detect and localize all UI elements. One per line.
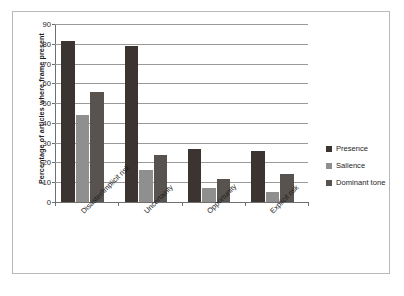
x-tick-mark <box>245 202 246 206</box>
bar-group <box>251 24 294 202</box>
bar <box>188 149 202 202</box>
legend-item[interactable]: Presence <box>326 140 404 157</box>
y-tick-label-70: 70 <box>43 59 51 68</box>
x-tick-mark <box>308 202 309 206</box>
bar-group <box>188 24 231 202</box>
y-tick-mark-50 <box>52 103 55 104</box>
bar-group <box>125 24 168 202</box>
plot-area: 9080706050403020100 Disaster/implicit ri… <box>55 24 308 202</box>
y-tick-mark-40 <box>52 123 55 124</box>
y-tick-label-30: 30 <box>43 138 51 147</box>
y-tick-label-40: 40 <box>43 118 51 127</box>
y-tick-label-90: 90 <box>43 20 51 29</box>
legend-label: Dominant tone <box>336 178 385 187</box>
y-tick-mark-30 <box>52 143 55 144</box>
y-tick-mark-90 <box>52 24 55 25</box>
y-tick-label-60: 60 <box>43 79 51 88</box>
chart-legend: PresenceSalienceDominant tone <box>326 140 404 191</box>
chart-frame: Percentage of articles where frame prese… <box>12 11 390 274</box>
x-tick-mark <box>55 202 56 206</box>
legend-swatch-icon <box>326 163 332 169</box>
legend-swatch-icon <box>326 146 332 152</box>
legend-swatch-icon <box>326 180 332 186</box>
legend-label: Salience <box>336 161 365 170</box>
bar <box>125 46 139 202</box>
bar <box>139 170 153 202</box>
y-tick-label-10: 10 <box>43 178 51 187</box>
figure-container: Percentage of articles where frame prese… <box>0 0 404 296</box>
bar <box>61 41 75 202</box>
x-tick-mark <box>182 202 183 206</box>
x-tick-mark <box>118 202 119 206</box>
y-tick-mark-20 <box>52 162 55 163</box>
y-axis-line <box>55 24 56 202</box>
y-tick-mark-10 <box>52 182 55 183</box>
bar-group <box>61 24 104 202</box>
y-tick-mark-80 <box>52 44 55 45</box>
legend-label: Presence <box>336 144 368 153</box>
legend-item[interactable]: Salience <box>326 157 404 174</box>
y-tick-label-80: 80 <box>43 39 51 48</box>
caption-fragment <box>22 283 382 294</box>
y-tick-label-0: 0 <box>47 198 51 207</box>
legend-item[interactable]: Dominant tone <box>326 174 404 191</box>
y-tick-mark-60 <box>52 83 55 84</box>
bar <box>251 151 265 202</box>
y-tick-label-50: 50 <box>43 99 51 108</box>
y-tick-label-20: 20 <box>43 158 51 167</box>
y-tick-mark-70 <box>52 64 55 65</box>
bar <box>76 115 90 202</box>
